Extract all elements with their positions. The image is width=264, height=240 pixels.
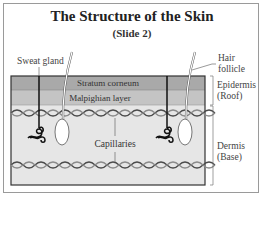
dermis-bracket bbox=[210, 106, 213, 185]
stratum-corneum-label: Stratum corneum bbox=[77, 78, 139, 88]
malpighian-layer-label: Malpighian layer bbox=[69, 93, 131, 103]
dermis-label-line2: (Base) bbox=[217, 152, 242, 163]
epidermis-bracket bbox=[210, 76, 213, 105]
hair-follicle-label-line1: Hair bbox=[218, 53, 235, 64]
dermis-label-line1: Dermis bbox=[217, 141, 245, 152]
sweat-gland-label: Sweat gland bbox=[17, 56, 64, 67]
epidermis-label-line1: Epidermis bbox=[217, 80, 256, 91]
epidermis-label-line2: (Roof) bbox=[217, 91, 242, 102]
capillaries-label: Capillaries bbox=[94, 139, 135, 149]
hair-follicle-label-line2: follicle bbox=[218, 64, 245, 75]
